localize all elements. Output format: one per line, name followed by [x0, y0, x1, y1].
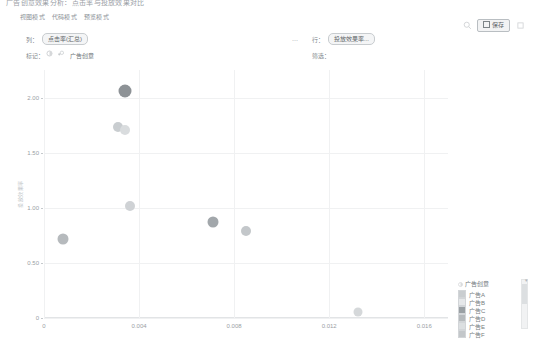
scatter-point[interactable]	[241, 226, 251, 236]
filters-shelf[interactable]: 筛选：	[312, 49, 522, 61]
page-title: 广告创意效果分析：点击率与投放效果对比	[6, 0, 145, 7]
legend-swatch	[458, 290, 466, 298]
columns-shelf[interactable]: 列： 点击率(汇总)	[26, 33, 276, 45]
filters-shelf-label: 筛选：	[312, 51, 330, 60]
gridline-horizontal	[44, 263, 448, 264]
gridline-vertical	[139, 70, 140, 318]
marks-shelf[interactable]: 标记： 广告创意	[26, 49, 276, 61]
toolbar-actions: 保存	[459, 19, 529, 34]
legend-swatch	[458, 330, 466, 338]
scatter-point[interactable]	[58, 233, 69, 244]
rows-shelf[interactable]: 行： 投放效果率...	[312, 33, 522, 45]
x-tick-label: 0.012	[322, 323, 337, 329]
legend-swatch	[458, 314, 466, 322]
drag-handle-icon[interactable]: ⋯	[292, 36, 299, 43]
y-tick-label: 0.50	[27, 260, 39, 266]
scatter-point[interactable]	[207, 217, 218, 228]
scatter-point[interactable]	[120, 125, 130, 135]
scatter-plot-canvas: 投放效果率 00.501.001.502.00 00.0040.0080.012…	[44, 70, 448, 318]
gridline-horizontal	[44, 98, 448, 99]
marks-shelf-label: 标记：	[26, 51, 44, 60]
more-options-icon[interactable]	[516, 21, 525, 30]
save-button-label: 保存	[492, 22, 504, 28]
tab-code-mode[interactable]: 代码模式	[52, 12, 77, 21]
gridline-vertical	[424, 70, 425, 318]
legend: 广告创意 广告A广告B广告C广告D广告E广告F ▾	[458, 279, 528, 338]
columns-pill-click-rate[interactable]: 点击率(汇总)	[42, 33, 88, 45]
legend-scrollbar[interactable]	[521, 279, 528, 329]
y-tick-label: 1.00	[27, 205, 39, 211]
y-tick-label: 1.50	[27, 150, 39, 156]
color-mark-icon[interactable]	[46, 50, 53, 57]
save-button[interactable]: 保存	[477, 19, 510, 32]
y-axis-title: 投放效果率	[16, 181, 23, 208]
legend-swatch	[458, 322, 466, 330]
legend-scrollbar-thumb[interactable]	[522, 284, 527, 304]
legend-swatch	[458, 298, 466, 306]
legend-title-label: 广告创意	[465, 281, 489, 287]
legend-items: 广告A广告B广告C广告D广告E广告F	[458, 290, 528, 338]
legend-swatch	[458, 306, 466, 314]
y-tick-label: 2.00	[27, 95, 39, 101]
search-icon[interactable]	[463, 21, 472, 30]
tab-view-mode[interactable]: 视图模式	[20, 12, 45, 21]
save-disk-icon	[483, 21, 490, 28]
rows-pill-effect-rate[interactable]: 投放效果率...	[328, 33, 375, 45]
scatter-point[interactable]	[125, 201, 135, 211]
gridline-vertical	[44, 70, 45, 318]
gridline-horizontal	[44, 153, 448, 154]
legend-collapse-icon[interactable]: ▾	[525, 277, 528, 283]
rows-shelf-label: 行：	[312, 35, 324, 44]
y-tick-label: 0	[36, 315, 39, 321]
legend-item[interactable]: 广告F	[458, 330, 528, 338]
x-tick-label: 0.016	[417, 323, 432, 329]
legend-item-label: 广告F	[469, 330, 485, 339]
size-mark-icon[interactable]	[57, 50, 64, 57]
document-title-strip: 广告创意效果分析：点击率与投放效果对比	[0, 0, 535, 9]
gridline-vertical	[329, 70, 330, 318]
gridline-horizontal	[44, 208, 448, 209]
x-tick-label: 0.004	[132, 323, 147, 329]
marks-pill-ad-creative[interactable]: 广告创意	[70, 51, 94, 60]
scatter-point[interactable]	[118, 84, 131, 97]
gridline-horizontal	[44, 318, 448, 319]
x-tick-label: 0.008	[227, 323, 242, 329]
scatter-point[interactable]	[353, 308, 362, 317]
columns-shelf-label: 列：	[26, 35, 38, 44]
tab-preview-mode[interactable]: 预览模式	[84, 12, 109, 21]
legend-color-icon	[458, 282, 463, 287]
gridline-vertical	[234, 70, 235, 318]
analytics-app: 广告创意效果分析：点击率与投放效果对比 视图模式 代码模式 预览模式 保存	[0, 0, 535, 357]
x-tick-label: 0	[42, 323, 45, 329]
toolbar: 视图模式 代码模式 预览模式 保存	[0, 9, 535, 25]
legend-title: 广告创意	[458, 279, 528, 288]
